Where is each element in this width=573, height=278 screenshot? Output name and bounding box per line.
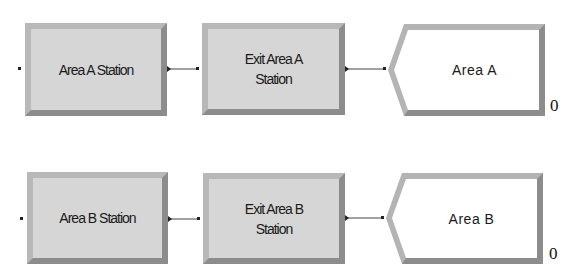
entry-point-area-a-station[interactable] xyxy=(18,67,21,70)
exit-point-area-a-station xyxy=(167,66,171,72)
station-label: Area B Station xyxy=(53,208,141,228)
entry-point-area-b-station[interactable] xyxy=(20,217,23,220)
route-label: Exit Area A Station xyxy=(223,49,325,89)
station-module-area-a[interactable]: Area A Station xyxy=(25,23,167,116)
leave-module-area-a[interactable]: Area A xyxy=(404,24,545,116)
station-label: Area A Station xyxy=(53,60,140,80)
route-label: Exit Area B Station xyxy=(223,199,325,239)
entry-point-exit-area-b xyxy=(197,217,200,220)
leave-module-area-b[interactable]: Area B xyxy=(400,173,543,264)
entity-count: 0 xyxy=(549,244,558,264)
route-module-exit-area-b[interactable]: Exit Area B Station xyxy=(203,173,345,264)
station-module-area-b[interactable]: Area B Station xyxy=(27,172,168,264)
route-module-exit-area-a[interactable]: Exit Area A Station xyxy=(202,23,345,115)
entry-point-exit-area-a xyxy=(196,67,199,70)
exit-point-area-b-station xyxy=(168,216,172,222)
exit-point-exit-area-a xyxy=(345,66,349,72)
exit-point-exit-area-b xyxy=(345,215,349,221)
entry-point-area-b xyxy=(381,216,384,219)
leave-label: Area B xyxy=(449,211,495,227)
entity-count: 0 xyxy=(550,96,559,116)
entry-point-area-a xyxy=(383,67,386,70)
leave-label: Area A xyxy=(452,62,497,78)
